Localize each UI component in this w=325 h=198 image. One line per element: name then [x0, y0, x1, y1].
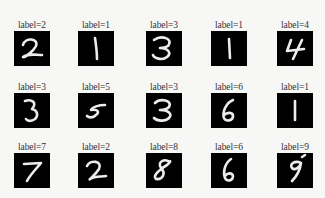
digit-sample: label=1 — [71, 20, 121, 66]
digit-sample: label=6 — [204, 142, 254, 188]
handwritten-digit — [155, 160, 170, 179]
sample-label: label=3 — [139, 82, 189, 92]
digit-sample: label=1 — [270, 82, 320, 128]
digit-image — [146, 31, 182, 66]
digit-sample: label=2 — [7, 20, 57, 66]
digit-image — [14, 153, 50, 188]
handwritten-digit — [287, 40, 304, 59]
digit-sample: label=1 — [204, 20, 254, 66]
sample-label: label=2 — [7, 20, 57, 30]
handwritten-digit — [154, 100, 170, 120]
sample-label: label=1 — [270, 82, 320, 92]
digit-2-stroke — [78, 153, 114, 188]
digit-6-stroke — [211, 153, 247, 188]
sample-label: label=4 — [270, 20, 320, 30]
sample-label: label=8 — [139, 142, 189, 152]
digit-sample: label=3 — [139, 20, 189, 66]
digit-sample: label=6 — [204, 82, 254, 128]
digit-4-stroke — [277, 31, 313, 66]
sample-label: label=3 — [7, 82, 57, 92]
digit-2-stroke — [14, 31, 50, 66]
digit-sample: label=3 — [7, 82, 57, 128]
digit-image — [146, 153, 182, 188]
digit-image — [14, 93, 50, 128]
digit-1-stroke — [211, 31, 247, 66]
handwritten-digit — [23, 39, 42, 57]
digit-6-stroke — [211, 93, 247, 128]
digit-image — [146, 93, 182, 128]
digit-image — [277, 153, 313, 188]
digit-3-stroke — [146, 31, 182, 66]
digit-sample: label=9 — [270, 142, 320, 188]
digit-1-stroke — [277, 93, 313, 128]
digit-8-stroke — [146, 153, 182, 188]
digit-3-stroke — [146, 93, 182, 128]
digit-7-stroke — [14, 153, 50, 188]
sample-label: label=5 — [71, 82, 121, 92]
handwritten-digit — [25, 100, 37, 121]
handwritten-digit — [95, 38, 97, 59]
digit-image — [78, 153, 114, 188]
digit-sample: label=7 — [7, 142, 57, 188]
digit-1-stroke — [78, 31, 114, 66]
digit-image — [211, 93, 247, 128]
digit-5-stroke — [78, 93, 114, 128]
sample-label: label=1 — [204, 20, 254, 30]
digit-image — [277, 31, 313, 66]
handwritten-digit — [224, 159, 233, 180]
digit-image — [277, 93, 313, 128]
sample-label: label=9 — [270, 142, 320, 152]
digit-image — [78, 31, 114, 66]
digit-sample: label=3 — [139, 82, 189, 128]
sample-label: label=1 — [71, 20, 121, 30]
handwritten-digit — [223, 100, 233, 120]
digit-image — [211, 31, 247, 66]
digit-sample: label=2 — [71, 142, 121, 188]
digit-image — [14, 31, 50, 66]
digit-3-stroke — [14, 93, 50, 128]
handwritten-digit — [87, 162, 106, 180]
sample-label: label=2 — [71, 142, 121, 152]
digit-9-stroke — [277, 153, 313, 188]
sample-label: label=3 — [139, 20, 189, 30]
sample-label: label=6 — [204, 142, 254, 152]
handwritten-digit — [291, 155, 305, 181]
digit-sample: label=5 — [71, 82, 121, 128]
sample-label: label=6 — [204, 82, 254, 92]
sample-label: label=7 — [7, 142, 57, 152]
handwritten-digit — [229, 39, 230, 58]
handwritten-digit — [24, 163, 41, 181]
digit-image — [78, 93, 114, 128]
handwritten-digit — [87, 105, 105, 117]
digit-image — [211, 153, 247, 188]
digit-sample: label=4 — [270, 20, 320, 66]
handwritten-digit — [153, 38, 170, 59]
digit-sample: label=8 — [139, 142, 189, 188]
